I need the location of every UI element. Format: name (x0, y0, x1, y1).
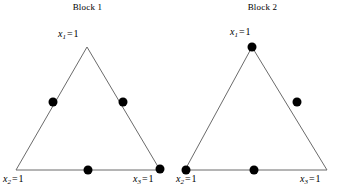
block-1-panel: Block 1 x1=1 x2=1 x3=1 (0, 0, 175, 190)
block-1-label-bottom-left-sub: 2 (7, 178, 11, 186)
block-1-triangle-graphic (0, 0, 175, 190)
block-2-triangle-outline (185, 47, 327, 170)
block-1-label-bottom-left-eq: = (12, 173, 18, 184)
block-1-label-bottom-right-sub: 3 (137, 178, 141, 186)
block-2-label-bottom-left-eq: = (185, 173, 191, 184)
block-2-label-bottom-left-sub: 2 (180, 178, 184, 186)
block-1-point-left-edge-midpoint (49, 98, 58, 107)
block-1-label-top: x1=1 (58, 28, 79, 41)
block-1-label-top-value: 1 (74, 28, 79, 39)
block-1-label-bottom-left: x2=1 (3, 173, 24, 186)
block-2-point-apex-vertex (248, 43, 257, 52)
block-1-label-bottom-right-eq: = (142, 173, 148, 184)
block-1-point-bottom-right-vertex (156, 165, 165, 174)
block-1-point-right-edge-midpoint (119, 98, 128, 107)
block-2-label-bottom-right-eq: = (309, 173, 315, 184)
block-2-label-bottom-right-value: 1 (316, 173, 321, 184)
block-1-point-bottom-edge-midpoint (84, 166, 93, 175)
block-1-label-top-eq: = (67, 28, 73, 39)
block-1-triangle-outline (16, 47, 160, 170)
block-2-panel: Block 2 x1=1 x2=1 x3=1 (175, 0, 350, 190)
block-2-label-top-eq: = (239, 26, 245, 37)
block-2-point-right-edge-point (293, 98, 302, 107)
block-2-point-bottom-edge-midpoint (250, 166, 259, 175)
block-1-label-bottom-right: x3=1 (133, 173, 154, 186)
block-2-label-top-sub: 1 (234, 31, 238, 39)
block-2-label-top-value: 1 (246, 26, 251, 37)
block-2-label-bottom-left: x2=1 (176, 173, 197, 186)
simplex-figure: Block 1 x1=1 x2=1 x3=1 Block 2 (0, 0, 350, 190)
block-2-label-bottom-right-sub: 3 (304, 178, 308, 186)
block-2-triangle-graphic (175, 0, 350, 190)
block-1-label-top-sub: 1 (62, 33, 66, 41)
block-1-label-bottom-right-value: 1 (149, 173, 154, 184)
block-2-label-bottom-right: x3=1 (300, 173, 321, 186)
block-1-label-bottom-left-value: 1 (19, 173, 24, 184)
block-2-label-bottom-left-value: 1 (192, 173, 197, 184)
block-2-label-top: x1=1 (230, 26, 251, 39)
